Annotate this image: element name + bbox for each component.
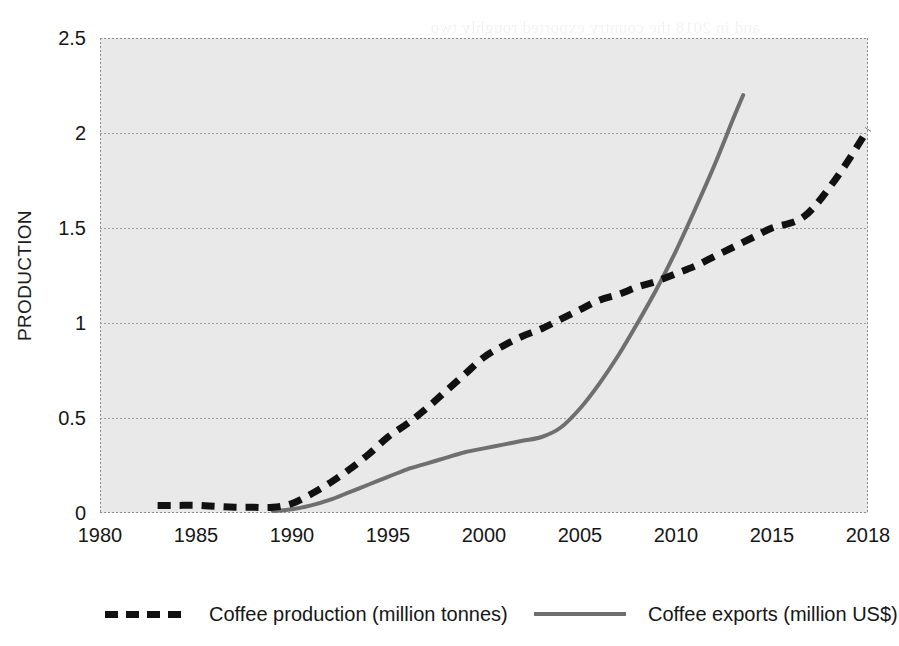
- legend-swatch-dashed-icon: [105, 611, 187, 618]
- legend-swatch-solid-icon: [534, 612, 626, 616]
- y-tick-label: 1.5: [58, 217, 86, 240]
- plot-area: [100, 38, 868, 513]
- y-tick-label: 0: [75, 502, 86, 525]
- x-tick-label: 2018: [846, 524, 891, 547]
- legend-label-coffee-exports: Coffee exports (million US$): [648, 603, 898, 626]
- series-layer: [100, 38, 868, 513]
- coffee-line-chart: PRODUCTION 00.511.522.5 1980198519901995…: [0, 0, 899, 646]
- legend-entry-coffee-exports: Coffee exports (million US$): [534, 596, 898, 632]
- y-tick-label: 1: [75, 312, 86, 335]
- x-tick-label: 1995: [366, 524, 411, 547]
- x-tick-label: 1990: [270, 524, 315, 547]
- x-tick-label: 2015: [750, 524, 795, 547]
- x-tick-label: 1985: [174, 524, 219, 547]
- x-tick-label: 2005: [558, 524, 603, 547]
- series-line-coffee-production: [158, 129, 868, 507]
- x-tick-label: 2010: [654, 524, 699, 547]
- x-tick-label: 2000: [462, 524, 507, 547]
- y-tick-label: 2: [75, 122, 86, 145]
- legend-label-coffee-production: Coffee production (million tonnes): [209, 603, 508, 626]
- chart-legend: Coffee production (million tonnes) Coffe…: [0, 596, 899, 632]
- y-tick-label: 2.5: [58, 27, 86, 50]
- y-tick-label: 0.5: [58, 407, 86, 430]
- series-line-coffee-exports: [273, 95, 743, 511]
- legend-entry-coffee-production: Coffee production (million tonnes): [105, 596, 508, 632]
- x-axis-tick-labels: 198019851990199520002005201020152018: [0, 524, 899, 554]
- x-tick-label: 1980: [78, 524, 123, 547]
